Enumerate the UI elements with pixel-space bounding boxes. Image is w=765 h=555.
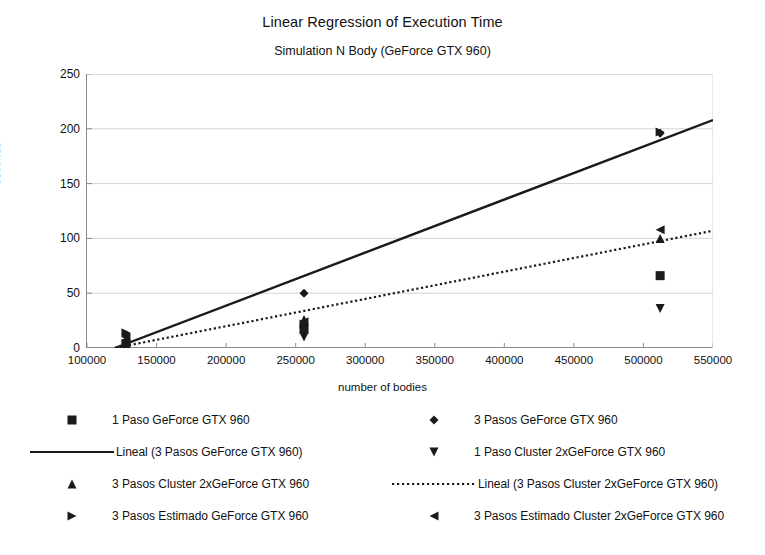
- square-marker: [30, 410, 116, 430]
- y-tick-label: 250: [60, 67, 80, 81]
- triangle-up-marker: [30, 474, 116, 494]
- x-tick-label: 200000: [207, 354, 245, 366]
- legend-item[interactable]: 3 Pasos Cluster 2xGeForce GTX 960: [30, 468, 405, 500]
- legend-label: 3 Pasos Cluster 2xGeForce GTX 960: [112, 477, 309, 491]
- legend-key: [392, 442, 474, 462]
- legend-label: Lineal (3 Pasos Cluster 2xGeForce GTX 96…: [478, 477, 718, 491]
- legend-key: [392, 506, 474, 526]
- chart-subtitle: Simulation N Body (GeForce GTX 960): [0, 44, 765, 58]
- legend-item[interactable]: 3 Pasos Estimado Cluster 2xGeForce GTX 9…: [392, 500, 765, 532]
- chart-page: Linear Regression of Execution Time Simu…: [0, 0, 765, 555]
- legend-item[interactable]: Lineal (3 Pasos Cluster 2xGeForce GTX 96…: [392, 468, 765, 500]
- legend-key: [30, 506, 112, 526]
- legend-key: [30, 474, 112, 494]
- plot-canvas: [87, 74, 713, 348]
- x-tick-label: 550000: [694, 354, 732, 366]
- legend-item[interactable]: 3 Pasos Estimado GeForce GTX 960: [30, 500, 405, 532]
- legend-key: [392, 474, 478, 494]
- x-tick-label: 350000: [416, 354, 454, 366]
- legend-label: 1 Paso Cluster 2xGeForce GTX 960: [474, 445, 665, 459]
- legend-label: Lineal (3 Pasos GeForce GTX 960): [116, 445, 303, 459]
- triangle-right-marker: [30, 506, 116, 526]
- legend-key: [30, 410, 112, 430]
- y-axis-label: seconds: [0, 142, 2, 185]
- y-tick-label: 50: [67, 286, 80, 300]
- legend-label: 3 Pasos Estimado GeForce GTX 960: [112, 509, 309, 523]
- solid-line: [30, 442, 116, 462]
- legend-label: 3 Pasos Estimado Cluster 2xGeForce GTX 9…: [474, 509, 724, 523]
- dotted-line: [392, 474, 478, 494]
- series-triangle-up: [121, 234, 664, 344]
- legend-item[interactable]: Lineal (3 Pasos GeForce GTX 960): [30, 436, 405, 468]
- legend-label: 3 Pasos GeForce GTX 960: [474, 413, 618, 427]
- y-tick-label: 200: [60, 122, 80, 136]
- legend-column-right: 3 Pasos GeForce GTX 9601 Paso Cluster 2x…: [392, 404, 765, 532]
- legend-item[interactable]: 3 Pasos GeForce GTX 960: [392, 404, 765, 436]
- series-diamond: [121, 129, 664, 340]
- x-tick-label: 150000: [137, 354, 175, 366]
- triangle-down-marker: [392, 442, 478, 462]
- legend-item[interactable]: 1 Paso Cluster 2xGeForce GTX 960: [392, 436, 765, 468]
- x-tick-label: 250000: [276, 354, 314, 366]
- plot-area: 050100150200250 100000150000200000250000…: [86, 74, 712, 348]
- x-axis-label: number of bodies: [0, 381, 765, 393]
- legend-label: 1 Paso GeForce GTX 960: [112, 413, 250, 427]
- legend-key: [392, 410, 474, 430]
- y-tick-label: 0: [73, 341, 80, 355]
- chart-title: Linear Regression of Execution Time: [0, 14, 765, 30]
- legend-column-left: 1 Paso GeForce GTX 960Lineal (3 Pasos Ge…: [30, 404, 405, 532]
- y-tick-label: 100: [60, 231, 80, 245]
- x-tick-label: 400000: [485, 354, 523, 366]
- x-tick-label: 100000: [68, 354, 106, 366]
- legend-item[interactable]: 1 Paso GeForce GTX 960: [30, 404, 405, 436]
- x-tick-label: 300000: [346, 354, 384, 366]
- x-tick-label: 450000: [555, 354, 593, 366]
- legend-key: [30, 442, 116, 462]
- series-triangle-down: [121, 304, 664, 348]
- series-square: [121, 271, 664, 348]
- y-tick-label: 150: [60, 177, 80, 191]
- x-tick-label: 500000: [624, 354, 662, 366]
- diamond-marker: [392, 410, 478, 430]
- series-triangle-right: [121, 128, 664, 338]
- triangle-left-marker: [392, 506, 478, 526]
- chart-legend: 1 Paso GeForce GTX 960Lineal (3 Pasos Ge…: [0, 404, 765, 550]
